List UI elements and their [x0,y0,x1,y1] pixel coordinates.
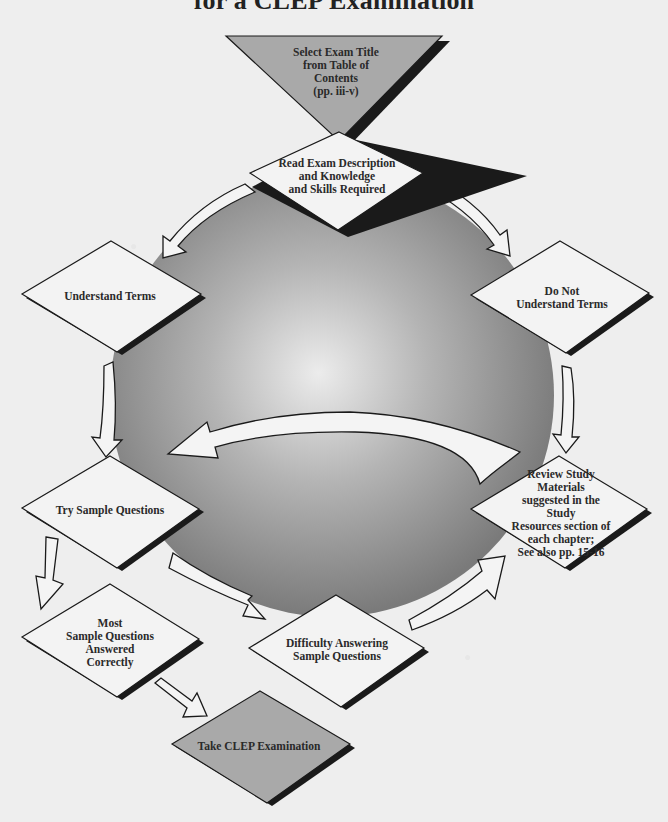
label-try-sample-questions: Try Sample Questions [56,504,164,517]
arrow-most-to-take [155,678,207,717]
label-take-clep-examination: Take CLEP Examination [198,740,321,753]
label-difficulty-answering: Difficulty Answering Sample Questions [286,637,388,663]
label-read-exam-description: Read Exam Description and Knowledge and … [279,157,396,196]
diagram-canvas: for a CLEP Examination [0,0,668,822]
flowchart-graphics [0,0,668,822]
label-review-study-materials: Review Study Materials suggested in the … [508,468,615,559]
arrow-notunderstand-to-review [553,366,579,453]
label-select-exam-title: Select Exam Title from Table of Contents… [293,46,379,98]
arrow-try-to-most [36,537,63,609]
label-do-not-understand-terms: Do Not Understand Terms [516,285,608,311]
label-most-answered-correctly: Most Sample Questions Answered Correctly [66,617,154,669]
label-understand-terms: Understand Terms [64,290,156,303]
